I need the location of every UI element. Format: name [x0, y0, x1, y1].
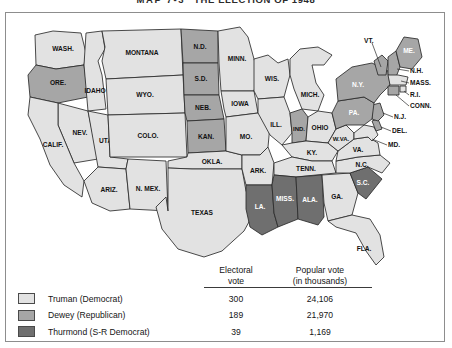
- state-label-wisconsin: WIS.: [265, 75, 279, 82]
- legend-swatch-cell-thurmond: [18, 321, 48, 338]
- state-label-delaware: DEL.: [392, 127, 407, 134]
- figure-map-number: MAP 7-3: [137, 0, 186, 5]
- state-indiana[interactable]: IND.: [290, 109, 308, 143]
- state-label-nevada: NEV.: [73, 129, 88, 136]
- state-label-west-virginia: W.VA.: [333, 136, 350, 142]
- state-label-ohio: OHIO: [312, 124, 329, 131]
- legend-candidate-dewey: Dewey (Republican): [48, 304, 204, 321]
- state-label-louisiana: LA.: [255, 203, 266, 210]
- state-iowa[interactable]: IOWA: [221, 91, 258, 117]
- figure-title: MAP 7-3THE ELECTION OF 1948: [0, 0, 452, 5]
- state-label-maryland: MD.: [388, 141, 400, 148]
- state-rhode-island[interactable]: [400, 86, 406, 92]
- state-label-tennessee: TENN.: [296, 165, 316, 172]
- state-label-colorado: COLO.: [138, 132, 159, 139]
- legend-electoral-vote-truman: 300: [204, 288, 268, 305]
- state-montana[interactable]: MONTANA: [102, 29, 183, 79]
- leader-line-rhode-island: [404, 91, 409, 95]
- leader-line-connecticut: [396, 95, 409, 106]
- state-label-maine: ME.: [403, 47, 415, 54]
- legend-popular-vote-dewey: 21,970: [268, 304, 372, 321]
- state-label-arizona: ARIZ.: [100, 186, 117, 193]
- state-oregon[interactable]: ORE.: [28, 65, 88, 103]
- leader-line-new-jersey: [383, 113, 393, 117]
- legend-header-candidate-spacer: [48, 265, 204, 288]
- legend-header-row: Electoral vote Popular vote (in thousand…: [18, 265, 372, 288]
- legend-electoral-vote-dewey: 189: [204, 304, 268, 321]
- legend-swatch-cell-dewey: [18, 304, 48, 321]
- dark-gray-swatch-icon: [18, 326, 35, 337]
- leader-line-delaware: [381, 127, 391, 131]
- figure-title-text: THE ELECTION OF 1948: [194, 0, 315, 5]
- state-label-kentucky: KY.: [307, 149, 317, 156]
- legend-header-popular-line2: (in thousands): [293, 276, 347, 286]
- state-label-south-carolina: S.C.: [357, 179, 370, 186]
- state-label-georgia: GA.: [331, 193, 343, 200]
- state-label-mississippi: MISS.: [276, 195, 294, 202]
- state-label-washington: WASH.: [52, 45, 74, 52]
- state-maine[interactable]: ME.: [396, 37, 422, 69]
- map-legend: Electoral vote Popular vote (in thousand…: [18, 265, 438, 339]
- state-label-virginia: VA.: [353, 146, 364, 153]
- state-label-oregon: ORE.: [50, 79, 66, 86]
- legend-header-popular-vote: Popular vote (in thousands): [268, 265, 372, 288]
- state-label-wyoming: WYO.: [136, 91, 154, 98]
- us-election-map: WASH. ORE. IDAHO MONTANA WYO. NEV.: [6, 13, 446, 275]
- medium-gray-swatch-icon: [18, 310, 35, 321]
- state-label-kansas: KAN.: [198, 133, 214, 140]
- legend-electoral-vote-thurmond: 39: [204, 321, 268, 338]
- legend-header-popular-line1: Popular vote: [296, 265, 344, 275]
- state-label-north-dakota: N.D.: [193, 43, 206, 50]
- state-label-new-jersey: N.J.: [394, 113, 406, 120]
- state-south-dakota[interactable]: S.D.: [183, 63, 219, 95]
- state-washington[interactable]: WASH.: [35, 31, 86, 69]
- state-label-north-carolina: N.C.: [355, 161, 368, 168]
- state-colorado[interactable]: COLO.: [108, 113, 187, 157]
- state-michigan[interactable]: MICH.: [290, 47, 332, 111]
- state-nebraska[interactable]: NEB.: [184, 95, 224, 121]
- state-mississippi[interactable]: MISS.: [272, 175, 298, 227]
- state-label-florida: FLA.: [357, 245, 372, 252]
- light-gray-swatch-icon: [18, 293, 35, 304]
- state-label-california: CALIF.: [43, 141, 64, 148]
- state-alabama[interactable]: ALA.: [296, 175, 324, 225]
- state-label-minnesota: MINN.: [228, 55, 247, 62]
- state-label-missouri: MO.: [240, 133, 253, 140]
- state-wyoming[interactable]: WYO.: [106, 75, 185, 115]
- state-massachusetts[interactable]: [388, 75, 408, 85]
- legend-popular-vote-truman: 24,106: [268, 288, 372, 305]
- legend-candidate-thurmond: Thurmond (S-R Democrat): [48, 321, 204, 338]
- state-connecticut[interactable]: [388, 86, 399, 95]
- state-label-iowa: IOWA: [231, 100, 249, 107]
- state-pennsylvania[interactable]: PA.: [332, 97, 374, 129]
- state-label-rhode-island: R.I.: [410, 91, 420, 98]
- legend-row-truman[interactable]: Truman (Democrat) 300 24,106: [18, 288, 372, 305]
- state-label-massachusetts: MASS.: [410, 79, 431, 86]
- state-label-montana: MONTANA: [125, 49, 158, 56]
- legend-header-electoral-line1: Electoral: [219, 265, 252, 275]
- state-label-michigan: MICH.: [301, 91, 320, 98]
- state-label-pennsylvania: PA.: [349, 109, 360, 116]
- legend-candidate-truman: Truman (Democrat): [48, 288, 204, 305]
- state-label-texas: TEXAS: [191, 209, 214, 216]
- state-label-vermont: VT.: [364, 37, 374, 44]
- state-florida[interactable]: FLA.: [328, 215, 384, 265]
- state-minnesota[interactable]: MINN.: [218, 27, 258, 91]
- state-idaho[interactable]: IDAHO: [84, 31, 106, 111]
- state-texas[interactable]: TEXAS: [156, 168, 256, 257]
- state-label-nebraska: NEB.: [195, 104, 211, 111]
- legend-row-thurmond[interactable]: Thurmond (S-R Democrat) 39 1,169: [18, 321, 372, 338]
- legend-header-electoral-line2: vote: [228, 276, 244, 286]
- state-label-idaho: IDAHO: [84, 87, 105, 94]
- state-label-illinois: ILL.: [270, 121, 282, 128]
- state-arizona[interactable]: ARIZ.: [84, 167, 130, 211]
- legend-popular-vote-thurmond: 1,169: [268, 321, 372, 338]
- state-wisconsin[interactable]: WIS.: [254, 55, 290, 99]
- state-label-arkansas: ARK.: [250, 167, 266, 174]
- state-label-south-dakota: S.D.: [195, 75, 208, 82]
- legend-header-swatch-spacer: [18, 265, 48, 288]
- legend-row-dewey[interactable]: Dewey (Republican) 189 21,970: [18, 304, 372, 321]
- state-north-dakota[interactable]: N.D.: [181, 29, 218, 63]
- state-kansas[interactable]: KAN.: [187, 119, 226, 153]
- figure-frame: WASH. ORE. IDAHO MONTANA WYO. NEV.: [5, 12, 445, 342]
